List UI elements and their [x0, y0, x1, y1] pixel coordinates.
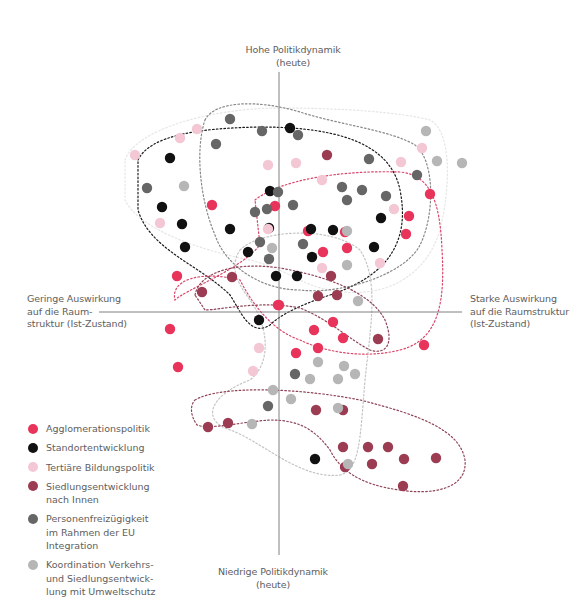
data-point [364, 154, 374, 164]
data-point [285, 123, 295, 133]
data-point [247, 419, 257, 429]
data-point [399, 454, 409, 464]
legend-item: Tertiäre Bildungspolitik [28, 461, 178, 474]
legend-dot-icon [28, 443, 38, 453]
data-point [367, 459, 377, 469]
data-point [421, 126, 431, 136]
data-point [328, 225, 338, 235]
data-point [309, 325, 319, 335]
data-point [375, 258, 385, 268]
data-point [337, 182, 347, 192]
axis-label-bottom: Niedrige Politikdynamik (heute) [193, 566, 353, 591]
data-point [262, 204, 272, 214]
data-point [338, 333, 348, 343]
data-point [317, 263, 327, 273]
cluster-agglomeration [174, 172, 442, 354]
data-point [227, 272, 237, 282]
legend-item: Standortentwicklung [28, 441, 178, 454]
cluster-siedlung-upper [195, 266, 389, 351]
data-point [401, 229, 411, 239]
data-point [211, 139, 221, 149]
data-point [417, 143, 427, 153]
data-point [317, 175, 327, 185]
data-point [412, 170, 422, 180]
data-point [165, 324, 175, 334]
legend-item: Siedlungsentwicklung nach Innen [28, 480, 178, 507]
data-point [291, 158, 301, 168]
data-point [203, 422, 213, 432]
data-point [254, 343, 264, 353]
data-point [173, 362, 183, 372]
data-point [225, 114, 235, 124]
data-point [339, 361, 349, 371]
data-point [425, 189, 435, 199]
legend-item: Personenfreizügigkeit im Rahmen der EU I… [28, 512, 178, 552]
data-point [157, 202, 167, 212]
legend-label: Standortentwicklung [46, 441, 145, 454]
data-point [267, 243, 277, 253]
legend-dot-icon [28, 462, 38, 472]
legend: Agglomerationspolitik Standortentwicklun… [28, 422, 178, 604]
data-point [342, 243, 352, 253]
cluster-personen [200, 104, 431, 291]
data-point [357, 185, 367, 195]
legend-label: Personenfreizügigkeit im Rahmen der EU I… [46, 512, 148, 552]
legend-label: Tertiäre Bildungspolitik [46, 461, 155, 474]
data-point [288, 200, 298, 210]
data-point [264, 254, 274, 264]
legend-label: Siedlungsentwicklung nach Innen [46, 480, 150, 507]
data-point [273, 187, 283, 197]
data-point [207, 200, 217, 210]
legend-dot-icon [28, 424, 38, 434]
data-point [248, 366, 258, 376]
legend-dot-icon [28, 560, 38, 570]
data-point [322, 150, 332, 160]
cluster-tertiaere [125, 108, 447, 293]
data-point [192, 124, 202, 134]
data-point [293, 130, 303, 140]
data-point [373, 334, 383, 344]
data-point [254, 315, 264, 325]
data-point [383, 442, 393, 452]
data-point [172, 271, 182, 281]
data-point [263, 160, 273, 170]
data-point [179, 181, 189, 191]
data-point [353, 296, 363, 306]
cluster-siedlung [191, 390, 465, 492]
data-point [396, 157, 406, 167]
legend-item: Agglomerationspolitik [28, 422, 178, 435]
data-point [313, 357, 323, 367]
data-point [155, 218, 165, 228]
data-point [381, 191, 391, 201]
data-point [333, 374, 343, 384]
data-point [342, 260, 352, 270]
data-point [292, 271, 302, 281]
data-point [263, 224, 273, 234]
data-point [250, 207, 260, 217]
data-point [306, 224, 316, 234]
data-point [398, 481, 408, 491]
data-point [142, 183, 152, 193]
data-point [313, 291, 323, 301]
data-point [326, 271, 336, 281]
data-point [130, 150, 140, 160]
data-point [338, 442, 348, 452]
legend-dot-icon [28, 514, 38, 524]
data-point [432, 156, 442, 166]
data-point [298, 239, 308, 249]
data-point [290, 369, 300, 379]
data-point [175, 133, 185, 143]
data-point [243, 247, 253, 257]
data-point [343, 459, 353, 469]
data-point [318, 247, 328, 257]
data-point [389, 204, 399, 214]
data-point [313, 343, 323, 353]
legend-item: Koordination Verkehrs- und Siedlungsentw… [28, 558, 178, 598]
data-point [376, 213, 386, 223]
data-point [350, 369, 360, 379]
data-point [333, 403, 343, 413]
data-point [257, 126, 267, 136]
data-point [332, 290, 342, 300]
data-point [180, 242, 190, 252]
data-point [342, 195, 352, 205]
